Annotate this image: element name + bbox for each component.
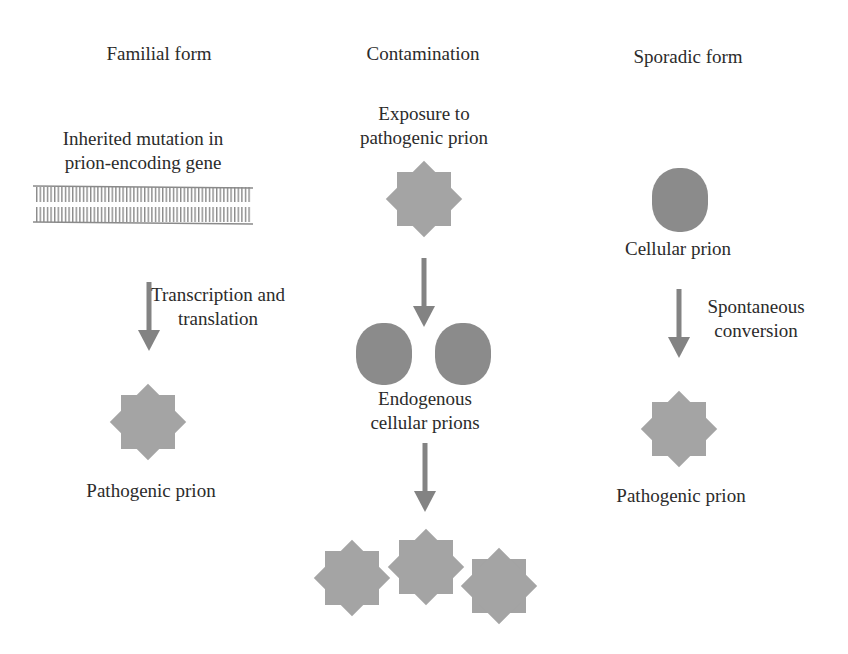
mutated-gene-icon: [33, 186, 253, 224]
exposure-pathogenic-prion-star-icon: [386, 161, 462, 237]
exposure-label: Exposure to pathogenic prion: [360, 102, 488, 150]
pathogenic-prion-label: Pathogenic prion: [86, 479, 215, 503]
converted-prion-star-icon: [314, 540, 390, 616]
endogenous-prions-label: Endogenous cellular prions: [370, 387, 479, 435]
column-title-contamination: Contamination: [367, 42, 480, 66]
transcription-label: Transcription and translation: [151, 283, 285, 331]
spontaneous-conversion-label: Spontaneous conversion: [707, 295, 804, 343]
column-title-sporadic: Sporadic form: [633, 45, 742, 69]
pathogenic-prion-label: Pathogenic prion: [616, 484, 745, 508]
cellular-prion-blob-icon: [652, 168, 708, 232]
converted-prion-star-icon: [388, 529, 464, 605]
arrow-down-icon: [414, 443, 436, 512]
gene-label: Inherited mutation in prion-encoding gen…: [63, 127, 223, 175]
converted-prion-star-icon: [461, 548, 537, 624]
cellular-prion-blob-icon: [356, 323, 412, 385]
cellular-prion-label: Cellular prion: [625, 237, 731, 261]
cellular-prion-blob-icon: [435, 323, 491, 385]
arrow-down-icon: [413, 258, 435, 327]
arrow-down-icon: [668, 289, 690, 358]
pathogenic-prion-star-icon: [110, 384, 186, 460]
pathogenic-prion-star-icon: [641, 391, 717, 467]
column-title-familial: Familial form: [106, 42, 211, 66]
